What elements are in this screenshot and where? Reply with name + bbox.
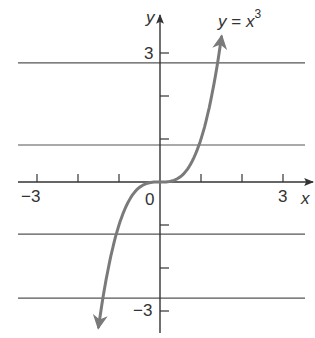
x-tick-label-neg3: −3: [21, 188, 40, 205]
x-axis-label: x: [301, 190, 310, 207]
function-eq: =: [227, 12, 246, 31]
y-tick-label-pos3: 3: [144, 45, 153, 62]
cubic-function-graph: [0, 0, 315, 338]
function-exponent: 3: [254, 7, 261, 21]
y-tick-label-neg3: −3: [133, 302, 152, 319]
function-lhs: y: [218, 12, 227, 31]
horizontal-rules: [18, 63, 305, 298]
function-label: y = x3: [218, 9, 261, 32]
x-tick-label-pos3: 3: [278, 188, 287, 205]
y-axis-label: y: [146, 9, 155, 26]
x-tick-label-zero: 0: [145, 191, 154, 208]
